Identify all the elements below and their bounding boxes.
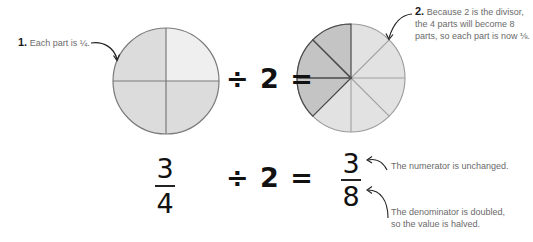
annotation-2-number: 2. [415, 5, 424, 17]
arrow-numerator [367, 157, 387, 171]
arrow-annotation-1 [91, 43, 120, 61]
fraction-left-denominator: 4 [156, 190, 173, 217]
note-numerator: The numerator is unchanged. [391, 160, 509, 172]
fraction-bar [155, 185, 175, 187]
note-denominator-line-2: so the value is halved. [391, 218, 505, 230]
annotation-2-line-3: parts, so each part is now ⅛. [415, 30, 530, 42]
arrow-denominator [367, 187, 388, 219]
fraction-three-quarters: 3 4 [155, 155, 175, 217]
pie-quarters [113, 28, 219, 134]
pie-quarter-unshaded [166, 28, 219, 81]
pie-quarter-shaded [113, 81, 166, 134]
annotation-1-number: 1. [18, 36, 27, 48]
fraction-right-numerator: 3 [342, 150, 359, 177]
top-operator: ÷ 2 = [226, 63, 314, 94]
annotation-2-line-2: the 4 parts will become 8 [415, 18, 530, 30]
annotation-2: 2. Because 2 is the divisor, the 4 parts… [415, 5, 530, 42]
annotation-1: 1. Each part is ¼. [18, 36, 90, 49]
note-denominator-line-1: The denominator is doubled, [391, 206, 505, 218]
bottom-operator: ÷ 2 = [226, 162, 314, 193]
arrow-annotation-2 [386, 14, 412, 40]
annotation-1-text: Each part is ¼. [30, 38, 90, 48]
annotation-2-line-1: Because 2 is the divisor, [427, 7, 524, 17]
fraction-right-denominator: 8 [342, 183, 359, 210]
pie-quarter-shaded [113, 28, 166, 81]
note-denominator: The denominator is doubled, so the value… [391, 206, 505, 230]
pie-quarter-shaded [166, 81, 219, 134]
fraction-three-eighths: 3 8 [341, 150, 361, 210]
fraction-left-numerator: 3 [156, 155, 173, 182]
